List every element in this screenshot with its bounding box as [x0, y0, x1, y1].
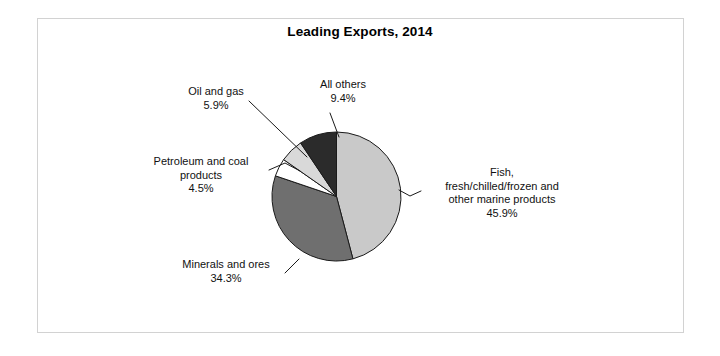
slice-value-fish: 45.9% [420, 207, 584, 221]
slice-label-minerals: Minerals and ores 34.3% [167, 258, 285, 285]
slice-label-petroleum-line2: products [133, 169, 269, 183]
slice-label-fish: Fish, fresh/chilled/frozen and other mar… [420, 166, 584, 220]
slice-value-petroleum: 4.5% [133, 182, 269, 196]
pie-chart-plot [0, 0, 720, 356]
figure-root: Leading Exports, 2014 Oil and gas 5.9% A… [0, 0, 720, 356]
slice-label-fish-line3: other marine products [420, 193, 584, 207]
slice-label-oil-and-gas: Oil and gas 5.9% [156, 85, 276, 112]
leader-line-fish [399, 190, 421, 196]
slice-label-fish-line2: fresh/chilled/frozen and [420, 180, 584, 194]
slice-label-all-others: All others 9.4% [296, 78, 390, 105]
slice-value-all-others: 9.4% [296, 92, 390, 106]
slice-label-minerals-text: Minerals and ores [167, 258, 285, 272]
slice-label-all-others-text: All others [296, 78, 390, 92]
slice-value-minerals: 34.3% [167, 272, 285, 286]
slice-label-petroleum: Petroleum and coal products 4.5% [133, 155, 269, 196]
slice-label-fish-line1: Fish, [420, 166, 584, 180]
slice-value-oil-and-gas: 5.9% [156, 99, 276, 113]
leader-line-minerals [285, 259, 299, 273]
slice-label-oil-and-gas-text: Oil and gas [156, 85, 276, 99]
pie-slice-group [272, 132, 401, 261]
slice-label-petroleum-line1: Petroleum and coal [133, 155, 269, 169]
